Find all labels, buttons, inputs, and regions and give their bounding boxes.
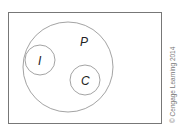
set-i-label: I (38, 54, 42, 68)
venn-diagram: P I C © Cengage Learning 2014 (0, 0, 185, 134)
universe-rectangle (9, 13, 162, 124)
set-p-label: P (80, 35, 88, 49)
copyright-credit: © Cengage Learning 2014 (169, 46, 177, 123)
set-c-label: C (81, 74, 90, 88)
set-p-circle (23, 22, 113, 112)
